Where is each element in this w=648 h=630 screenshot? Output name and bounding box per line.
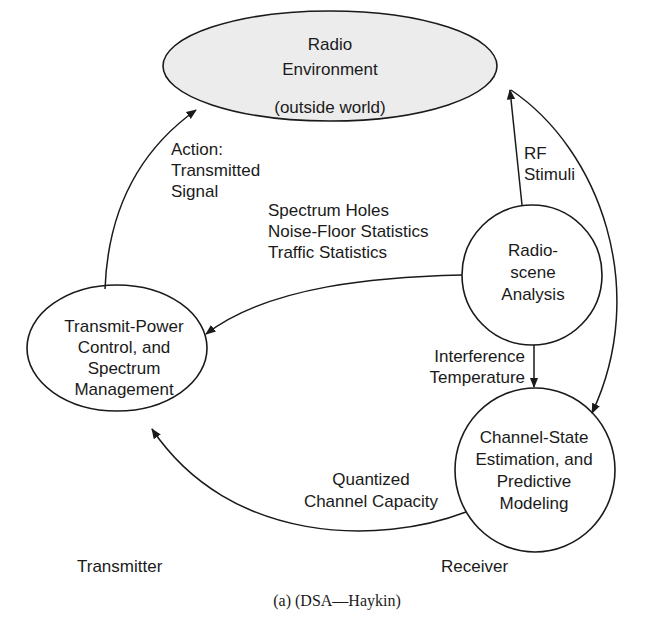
channel-state-line-2: Estimation, and xyxy=(475,450,592,469)
channel-state-line-3: Predictive xyxy=(497,472,572,491)
label-spectrum-info: Spectrum Holes Noise-Floor Statistics Tr… xyxy=(268,201,429,262)
radio-environment-line-3: (outside world) xyxy=(274,98,386,117)
channel-state-ellipse xyxy=(455,388,615,552)
svg-text:Interference: Interference xyxy=(434,347,525,366)
svg-text:Signal: Signal xyxy=(171,182,218,201)
edge-spectrum-info-arrow xyxy=(206,275,462,334)
transmit-power-line-2: Control, and xyxy=(78,338,171,357)
node-radio-environment: Radio Environment (outside world) xyxy=(163,11,497,121)
channel-state-line-1: Channel-State xyxy=(480,428,589,447)
svg-text:Channel Capacity: Channel Capacity xyxy=(304,492,439,511)
label-rf-stimuli: RF Stimuli xyxy=(524,144,575,184)
svg-text:Spectrum Holes: Spectrum Holes xyxy=(268,201,389,220)
transmit-power-line-4: Management xyxy=(74,380,174,399)
channel-state-line-4: Modeling xyxy=(500,494,569,513)
svg-text:Temperature: Temperature xyxy=(430,368,525,387)
transmit-power-line-3: Spectrum xyxy=(88,359,161,378)
transmit-power-line-1: Transmit-Power xyxy=(64,317,184,336)
cognitive-cycle-diagram: Radio Environment (outside world) Radio-… xyxy=(0,0,648,630)
figure-caption: (a) (DSA—Haykin) xyxy=(273,592,401,610)
label-interference: Interference Temperature xyxy=(430,347,525,387)
node-channel-state-estimation: Channel-State Estimation, and Predictive… xyxy=(455,388,615,552)
svg-text:Traffic Statistics: Traffic Statistics xyxy=(268,243,387,262)
radio-scene-line-3: Analysis xyxy=(501,285,564,304)
svg-text:Action:: Action: xyxy=(171,140,223,159)
label-capacity: Quantized Channel Capacity xyxy=(304,470,439,511)
radio-scene-line-1: Radio- xyxy=(508,241,558,260)
transmitter-label: Transmitter xyxy=(77,557,163,576)
edge-rf-stimuli-line xyxy=(510,90,522,205)
radio-scene-line-2: scene xyxy=(510,263,555,282)
svg-text:Noise-Floor Statistics: Noise-Floor Statistics xyxy=(268,222,429,241)
label-action: Action: Transmitted Signal xyxy=(171,140,260,201)
svg-text:Quantized: Quantized xyxy=(332,470,410,489)
edge-capacity-arrow xyxy=(152,429,466,531)
svg-text:Stimuli: Stimuli xyxy=(524,165,575,184)
radio-environment-line-2: Environment xyxy=(282,60,378,79)
svg-text:RF: RF xyxy=(524,144,547,163)
receiver-label: Receiver xyxy=(441,557,508,576)
node-transmit-power-control: Transmit-Power Control, and Spectrum Man… xyxy=(27,285,207,411)
radio-environment-line-1: Radio xyxy=(308,35,352,54)
node-radio-scene-analysis: Radio- scene Analysis xyxy=(462,205,602,345)
svg-text:Transmitted: Transmitted xyxy=(171,161,260,180)
